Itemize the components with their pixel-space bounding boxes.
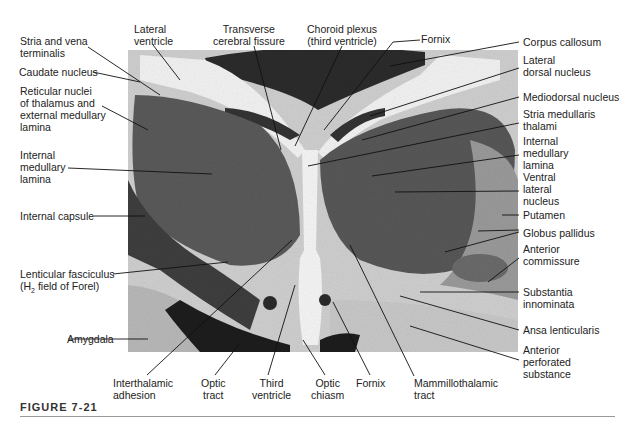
label-internal-medullary-lamina-left: Internal medullary lamina (20, 149, 66, 185)
right-fornix-spot (319, 294, 331, 306)
label-internal-medullary-lamina-right: Internal medullary lamina (523, 135, 569, 171)
label-optic-tract: Optic tract (201, 377, 226, 401)
label-amygdala: Amygdala (67, 333, 114, 345)
label-internal-capsule: Internal capsule (20, 210, 94, 222)
figure-caption: FIGURE 7-21 (20, 401, 98, 413)
label-ventral-lateral-nucleus: Ventral lateral nucleus (523, 171, 559, 207)
label-h-field: (H (20, 280, 31, 292)
label-reticular-nuclei: Reticular nuclei of thalamus and externa… (20, 85, 106, 133)
label-transverse-cerebral-fissure: Transverse cerebral fissure (213, 23, 285, 47)
label-lateral-ventricle: Lateral ventricle (134, 23, 173, 47)
label-field-of-forel: field of Forel) (35, 280, 99, 292)
label-mediodorsal-nucleus: Mediodorsal nucleus (523, 91, 619, 103)
label-stria-vena-terminalis: Stria and vena terminalis (20, 35, 88, 59)
label-anterior-commissure: Anterior commissure (523, 243, 580, 267)
label-corpus-callosum: Corpus callosum (523, 36, 601, 48)
label-putamen: Putamen (523, 209, 565, 221)
label-mammillothalamic-tract: Mammillothalamic tract (414, 377, 498, 401)
label-third-ventricle: Third ventricle (252, 377, 291, 401)
label-interthalamic-adhesion: Interthalamic adhesion (113, 377, 173, 401)
label-globus-pallidus: Globus pallidus (523, 227, 595, 239)
label-optic-chiasm: Optic chiasm (311, 377, 344, 401)
figure-stage: Stria and vena terminalis Lateral ventri… (0, 0, 636, 424)
left-mammillothalamic-spot (263, 296, 277, 310)
label-ansa-lenticularis: Ansa lenticularis (523, 324, 599, 336)
label-fornix-bottom: Fornix (356, 377, 385, 389)
label-lenticular-fasciculus-detail: (H2 field of Forel) (20, 280, 99, 297)
label-anterior-perforated-substance: Anterior perforated substance (523, 344, 571, 380)
label-substantia-innominata: Substantia innominata (523, 286, 574, 310)
anterior-commissure-region (452, 254, 508, 282)
label-stria-medullaris-thalami: Stria medullaris thalami (523, 108, 595, 132)
label-lenticular-fasciculus: Lenticular fasciculus (20, 268, 115, 280)
label-choroid-plexus: Choroid plexus (third ventricle) (307, 23, 377, 47)
label-lateral-dorsal-nucleus: Lateral dorsal nucleus (523, 54, 591, 78)
caption-rule (20, 416, 615, 417)
label-fornix-top: Fornix (421, 33, 450, 45)
label-caudate-nucleus: Caudate nucleus (19, 66, 98, 78)
